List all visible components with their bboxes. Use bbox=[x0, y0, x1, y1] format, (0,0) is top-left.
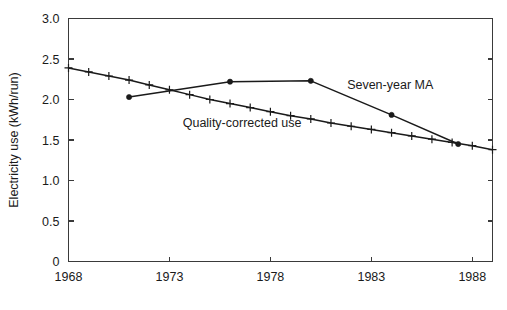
y-tick-label: 1.5 bbox=[42, 134, 59, 148]
data-point-marker bbox=[226, 100, 234, 108]
x-tick-label: 1988 bbox=[458, 270, 486, 284]
data-point-marker bbox=[266, 108, 274, 116]
data-point-marker bbox=[145, 81, 153, 89]
data-point-marker bbox=[125, 76, 133, 84]
x-tick-label: 1983 bbox=[357, 270, 385, 284]
data-point-marker bbox=[65, 64, 73, 72]
data-point-marker bbox=[307, 115, 315, 123]
data-point-marker bbox=[388, 129, 396, 137]
series-label-quality-corrected-use: Quality-corrected use bbox=[183, 116, 302, 130]
axes-frame bbox=[69, 19, 493, 262]
y-tick-label: 0 bbox=[53, 255, 60, 269]
data-point-marker bbox=[126, 94, 131, 99]
data-point-marker bbox=[389, 112, 394, 117]
series-label-seven-year-ma: Seven-year MA bbox=[347, 78, 434, 92]
data-point-marker bbox=[428, 135, 436, 143]
x-tick-label: 1978 bbox=[256, 270, 284, 284]
data-point-marker bbox=[367, 125, 375, 133]
line-chart: 00.51.01.52.02.53.0 19681973197819831988… bbox=[0, 0, 507, 310]
y-tick-label: 2.0 bbox=[42, 93, 59, 107]
y-tick-label: 0.5 bbox=[42, 215, 59, 229]
data-point-marker bbox=[468, 142, 476, 150]
x-tick-label: 1973 bbox=[156, 270, 184, 284]
x-axis: 19681973197819831988 bbox=[55, 257, 487, 284]
data-point-marker bbox=[206, 96, 214, 104]
y-tick-label: 3.0 bbox=[42, 12, 59, 26]
x-tick-label: 1968 bbox=[55, 270, 83, 284]
series-annotations: Seven-year MAQuality-corrected use bbox=[183, 78, 434, 130]
data-point-marker bbox=[105, 72, 113, 80]
y-tick-label: 2.5 bbox=[42, 53, 59, 67]
data-point-marker bbox=[308, 78, 313, 83]
data-point-marker bbox=[246, 104, 254, 112]
data-point-marker bbox=[408, 132, 416, 140]
data-point-marker bbox=[85, 68, 93, 76]
y-axis: 00.51.01.52.02.53.0 bbox=[42, 12, 492, 269]
data-point-marker bbox=[227, 79, 232, 84]
data-point-marker bbox=[165, 86, 173, 94]
plot-frame bbox=[69, 19, 493, 262]
data-point-marker bbox=[327, 119, 335, 127]
chart-figure: 00.51.01.52.02.53.0 19681973197819831988… bbox=[0, 0, 507, 310]
data-point-marker bbox=[347, 122, 355, 130]
y-tick-label: 1.0 bbox=[42, 174, 59, 188]
data-point-marker bbox=[186, 91, 194, 99]
data-point-marker bbox=[489, 146, 497, 154]
y-axis-title: Electricity use (kWh/run) bbox=[7, 72, 21, 207]
